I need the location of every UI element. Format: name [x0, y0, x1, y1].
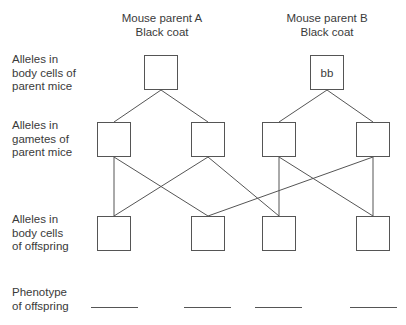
line-gamete-3-to-offspring-4 [279, 157, 373, 216]
offspring-box-1[interactable] [97, 216, 131, 251]
line-parent-b-to-gamete-3 [279, 90, 327, 122]
label-line: parent mice [12, 146, 72, 160]
label-line: body cells [12, 227, 69, 241]
parent-a-allele-box[interactable] [144, 55, 178, 90]
gamete-box-3[interactable] [262, 122, 296, 157]
parent-a-coat: Black coat [97, 26, 227, 40]
gamete-box-2[interactable] [191, 122, 225, 157]
label-line: Alleles in [12, 53, 76, 67]
offspring-box-4[interactable] [356, 216, 390, 251]
parent-b-coat: Black coat [262, 26, 392, 40]
header-parent-a: Mouse parent A Black coat [97, 12, 227, 39]
label-line: parent mice [12, 80, 76, 94]
offspring-box-3[interactable] [262, 216, 296, 251]
line-gamete-4-to-offspring-2 [208, 157, 373, 216]
label-parent-body-cells: Alleles in body cells of parent mice [12, 53, 76, 94]
phenotype-blank-3[interactable] [255, 307, 302, 308]
label-line: Alleles in [12, 213, 69, 227]
offspring-box-2[interactable] [191, 216, 225, 251]
phenotype-blank-1[interactable] [91, 307, 138, 308]
label-line: of offspring [12, 300, 69, 314]
phenotype-blank-4[interactable] [350, 307, 397, 308]
label-line: body cells of [12, 67, 76, 81]
parent-a-name: Mouse parent A [97, 12, 227, 26]
parent-b-allele-box[interactable]: bb [310, 55, 344, 90]
label-line: of offspring [12, 240, 69, 254]
line-parent-a-to-gamete-2 [161, 90, 208, 122]
label-offspring-phenotype: Phenotype of offspring [12, 286, 69, 313]
label-offspring-body-cells: Alleles in body cells of offspring [12, 213, 69, 254]
label-parent-gametes: Alleles in gametes of parent mice [12, 119, 72, 160]
phenotype-blank-2[interactable] [184, 307, 231, 308]
punnett-connection-lines [0, 0, 406, 325]
label-line: Phenotype [12, 286, 69, 300]
label-line: Alleles in [12, 119, 72, 133]
line-parent-a-to-gamete-1 [114, 90, 161, 122]
line-parent-b-to-gamete-4 [327, 90, 373, 122]
label-line: gametes of [12, 133, 72, 147]
parent-b-name: Mouse parent B [262, 12, 392, 26]
line-gamete-2-to-offspring-3 [208, 157, 279, 216]
gamete-box-4[interactable] [356, 122, 390, 157]
header-parent-b: Mouse parent B Black coat [262, 12, 392, 39]
gamete-box-1[interactable] [97, 122, 131, 157]
